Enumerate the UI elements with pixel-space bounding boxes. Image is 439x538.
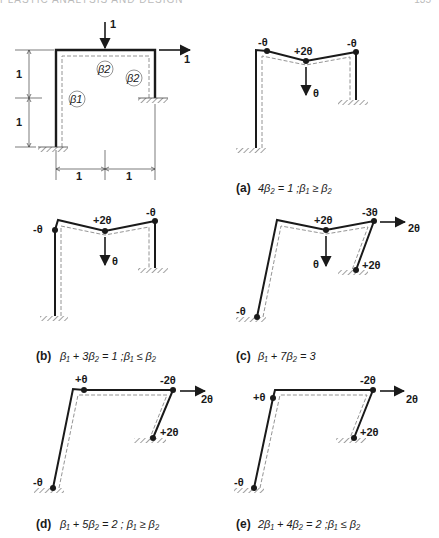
moment-label-beta2-beam: β2: [97, 61, 113, 77]
dim-h-left: 1: [76, 170, 82, 182]
panel-b-beam-mechanism: -θ +2θ -θ θ (b) β₁ + 3β₂ = 1 ;β₁ ≤ β₂: [33, 206, 168, 363]
left-fixed-support: [38, 147, 68, 152]
hinge: [254, 314, 260, 320]
hinge: [152, 218, 158, 224]
panel-a-letter: (a): [236, 181, 251, 195]
hinge: [52, 227, 58, 233]
hinge: [370, 387, 376, 393]
hinge-label: +2θ: [362, 259, 381, 271]
hinge-label: -θ: [33, 223, 43, 235]
panel-c-combined-mechanism: -θ +2θ -3θ +2θ θ 2θ (c) β₁ + 7β₂ = 3: [236, 206, 420, 363]
hinge-label: -θ: [33, 476, 43, 488]
hinge: [50, 485, 56, 491]
dim-h-right: 1: [126, 170, 132, 182]
sway-label: 2θ: [406, 393, 418, 405]
moment-label-beta1: β1: [69, 91, 85, 107]
right-fixed-support: [138, 98, 168, 103]
hinge: [323, 227, 329, 233]
hinge-label: +2θ: [314, 214, 333, 226]
horizontal-load-label: 1: [184, 53, 190, 65]
panel-d-equation: β₁ + 5β₂ = 2 ; β₁ ≥ β₂: [59, 518, 160, 530]
hinge-label: +2θ: [360, 426, 379, 438]
hinge: [353, 49, 359, 55]
hinge: [351, 435, 357, 441]
panel-b-equation: β₁ + 3β₂ = 1 ;β₁ ≤ β₂: [59, 350, 157, 362]
panel-c-equation: β₁ + 7β₂ = 3: [257, 350, 316, 362]
hinge: [170, 387, 176, 393]
sway-label: 2θ: [408, 222, 420, 234]
dim-v-upper: 1: [16, 68, 22, 80]
panel-e-combined-mechanism: -θ +θ -2θ +2θ 2θ (e) 2β₁ + 4β₂ = 2 ;β₁ ≤…: [234, 374, 418, 531]
hinge-label: +2θ: [160, 426, 179, 438]
panel-d-combined-mechanism: -θ +θ -2θ +2θ 2θ (d) β₁ + 5β₂ = 2 ; β₁ ≥…: [33, 373, 213, 531]
hinge: [264, 48, 270, 54]
hinge-label: -θ: [258, 36, 268, 48]
hinge-label: -θ: [234, 476, 244, 488]
hinge-label: -θ: [146, 206, 156, 218]
hinge-label: +2θ: [294, 45, 313, 57]
panel-a-beam-mechanism: -θ +2θ -θ θ (a) 4β₂ = 1 ;β₁ ≥ β₂: [236, 36, 368, 195]
hinge: [102, 228, 108, 234]
displacement-label: θ: [313, 87, 319, 99]
sway-label: 2θ: [201, 393, 213, 405]
hinge: [303, 58, 309, 64]
svg-text:β2: β2: [97, 63, 110, 75]
hinge-label: +θ: [253, 391, 265, 403]
displacement-label: θ: [313, 258, 319, 270]
hinge: [270, 395, 276, 401]
hinge-label: +2θ: [93, 214, 112, 226]
dim-v-lower: 1: [16, 116, 22, 128]
panel-b-letter: (b): [36, 349, 51, 363]
horizontal-dimension: [56, 104, 155, 180]
hinge-label: -2θ: [360, 374, 376, 386]
hinge: [353, 267, 359, 273]
displacement-label: θ: [112, 255, 118, 267]
hinge: [81, 387, 87, 393]
hinge: [150, 435, 156, 441]
panel-e-equation: 2β₁ + 4β₂ = 2 ;β₁ ≤ β₂: [257, 518, 361, 530]
hinge: [251, 485, 257, 491]
vertical-dimension: [15, 50, 54, 147]
svg-text:β1: β1: [69, 93, 82, 105]
collapse-mechanisms-figure: 1 1 1 1 1 1: [0, 0, 439, 538]
hinge-label: -θ: [347, 37, 357, 49]
hinge: [371, 218, 377, 224]
hinge-label: -θ: [236, 305, 246, 317]
panel-c-letter: (c): [236, 349, 251, 363]
panel-e-letter: (e): [236, 517, 251, 531]
moment-label-beta2-column: β2: [126, 70, 142, 86]
panel-d-letter: (d): [36, 517, 51, 531]
hinge-label: -3θ: [362, 206, 378, 218]
hinge-label: +θ: [75, 373, 87, 385]
svg-text:β2: β2: [126, 72, 139, 84]
vertical-load-label: 1: [110, 18, 116, 30]
base-frame: 1 1 1 1 1 1: [15, 18, 190, 182]
hinge-label: -2θ: [160, 374, 176, 386]
panel-a-equation: 4β₂ = 1 ;β₁ ≥ β₂: [258, 182, 333, 194]
